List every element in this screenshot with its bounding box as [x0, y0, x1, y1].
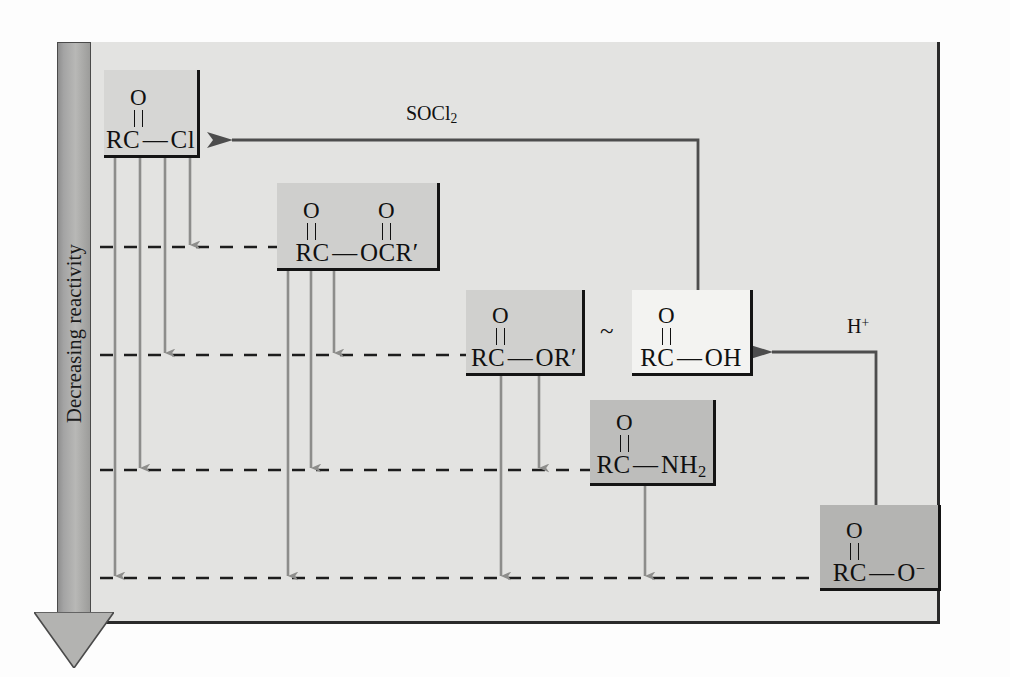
oxygen-label: O: [378, 199, 395, 222]
carbonyl-group-1: O: [846, 519, 863, 560]
carbonyl-group-1: O: [658, 304, 675, 345]
socl2-subscript: 2: [450, 111, 457, 126]
route-hplus: [772, 352, 876, 505]
carbonyl-group-2: O: [378, 199, 395, 240]
formula-acid-chloride: RC — Cl: [106, 127, 195, 152]
species-box-amide[interactable]: O RC — NH2: [590, 400, 716, 486]
reagent-label-hplus: H+: [847, 315, 869, 338]
double-bond-icon: [496, 328, 505, 345]
oxygen-label: O: [303, 199, 320, 222]
formula-ester: RC — OR′: [471, 345, 577, 370]
carbonyl-row-carboxylic-acid: O: [641, 299, 741, 345]
species-box-carboxylic-acid[interactable]: O RC — OH: [632, 290, 753, 376]
carbonyl-row-anhydride: O O: [286, 194, 428, 240]
carbonyl-group-1: O: [303, 199, 320, 240]
carbonyl-group-1: O: [492, 304, 509, 345]
carbonyl-group-1: O: [130, 86, 147, 127]
carbonyl-row-ester: O: [475, 299, 573, 345]
carbonyl-row-amide: O: [599, 406, 704, 452]
double-bond-icon: [620, 435, 629, 452]
oxygen-label: O: [658, 304, 675, 327]
double-bond-icon: [850, 543, 859, 560]
formula-carboxylate: RC — O−: [833, 560, 926, 585]
double-bond-icon: [307, 223, 316, 240]
oxygen-label: O: [846, 519, 863, 542]
double-bond-icon: [134, 110, 143, 127]
carbonyl-row-carboxylate: O: [829, 514, 929, 560]
carbonyl-group-1: O: [616, 411, 633, 452]
formula-amide: RC — NH2: [596, 452, 706, 480]
formula-carboxylic-acid: RC — OH: [640, 345, 741, 370]
oxygen-label: O: [492, 304, 509, 327]
double-bond-icon: [662, 328, 671, 345]
double-bond-icon: [382, 223, 391, 240]
decreasing-reactivity-arrow-head: [34, 612, 114, 668]
oxygen-label: O: [130, 86, 147, 109]
equivalence-tilde: ~: [600, 317, 614, 345]
reagent-label-socl2: SOCl2: [406, 102, 457, 127]
formula-anhydride: RC — OCR′: [296, 240, 419, 265]
species-box-carboxylate[interactable]: O RC — O−: [820, 505, 941, 591]
decreasing-reactivity-arrow-shaft: [57, 42, 91, 624]
oxygen-label: O: [616, 411, 633, 434]
species-box-anhydride[interactable]: O O RC — OCR′: [277, 183, 440, 271]
carbonyl-row-acid-chloride: O: [113, 81, 188, 127]
species-box-ester[interactable]: O RC — OR′: [466, 290, 585, 376]
species-box-acid-chloride[interactable]: O RC — Cl: [104, 70, 200, 158]
hplus-superscript: +: [861, 315, 869, 330]
diagram-stage: Decreasing reactivity: [0, 0, 1010, 677]
